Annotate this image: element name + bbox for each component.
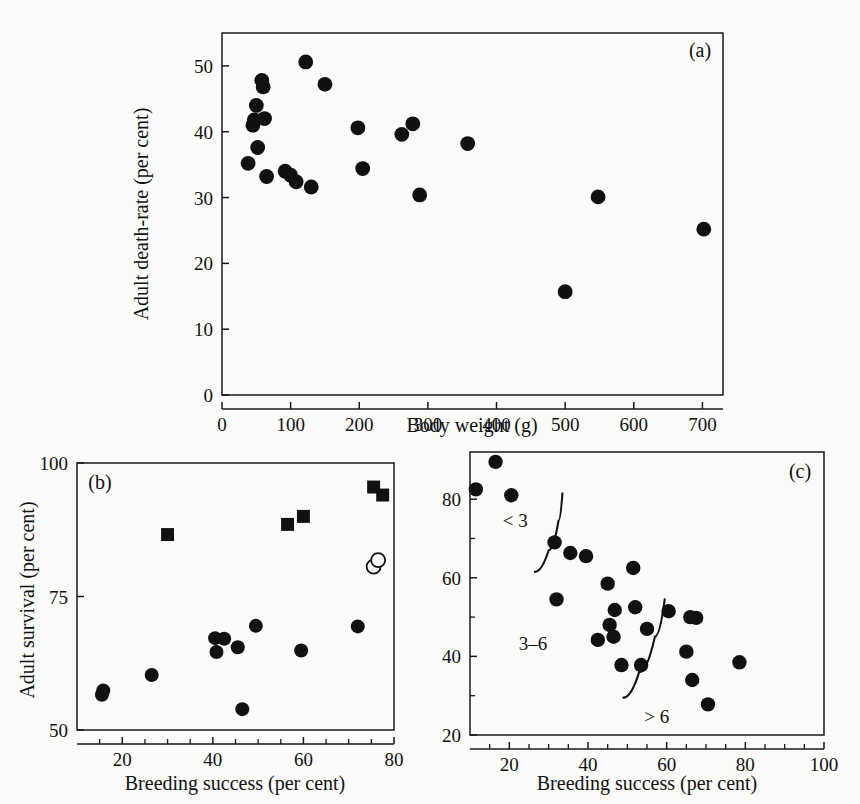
x-tick-label: 60	[294, 749, 313, 770]
x-tick-label: 20	[500, 754, 519, 775]
y-tick-label: 75	[49, 587, 68, 608]
data-point-circle	[488, 455, 502, 469]
panel-a: 010020030040050060070001020304050(a)Body…	[130, 33, 723, 437]
data-point-circle	[701, 697, 715, 711]
plot-frame	[470, 452, 824, 735]
data-point-circle	[558, 284, 573, 299]
panel-label: (a)	[689, 39, 711, 62]
y-tick-label: 10	[194, 319, 213, 340]
data-point-square	[297, 510, 310, 523]
data-point-square	[376, 489, 389, 502]
data-point-circle	[235, 702, 249, 716]
data-point-square	[161, 528, 174, 541]
y-axis-title: Adult survival (per cent)	[16, 501, 39, 698]
data-point-circle	[249, 619, 263, 633]
group-annotation: > 6	[644, 706, 669, 727]
data-point-circle	[217, 632, 231, 646]
data-point-circle	[591, 633, 605, 647]
data-point-circle	[318, 77, 333, 92]
data-point-circle	[634, 658, 648, 672]
data-point-circle	[351, 619, 365, 633]
data-point-circle	[145, 668, 159, 682]
data-point-circle	[294, 643, 308, 657]
data-point-circle	[614, 658, 628, 672]
data-point-circle	[259, 169, 274, 184]
x-tick-label: 0	[217, 414, 227, 435]
data-point-circle	[350, 120, 365, 135]
x-axis-title: Breeding success (per cent)	[125, 772, 345, 795]
plot-frame	[77, 463, 394, 730]
data-point-circle	[606, 630, 620, 644]
figure-svg: 010020030040050060070001020304050(a)Body…	[0, 0, 860, 804]
data-point-circle	[250, 140, 265, 155]
group-annotation: < 3	[503, 510, 528, 531]
panel-label: (c)	[789, 460, 811, 483]
x-axis-title: Breeding success (per cent)	[537, 772, 757, 795]
group-annotation: 3–6	[519, 633, 548, 654]
y-tick-label: 50	[49, 720, 68, 741]
data-point-circle	[209, 645, 223, 659]
panel-label: (b)	[88, 471, 111, 494]
y-tick-label: 20	[194, 253, 213, 274]
panel-c: 2040608010020406080< 33–6> 6(c)Breeding …	[442, 452, 838, 795]
y-axis-title: Adult death-rate (per cent)	[130, 108, 153, 321]
y-tick-label: 0	[204, 385, 214, 406]
data-point-circle	[685, 673, 699, 687]
x-tick-label: 600	[620, 414, 649, 435]
data-point-circle	[628, 600, 642, 614]
y-tick-label: 100	[40, 453, 69, 474]
data-point-circle	[412, 188, 427, 203]
y-tick-label: 40	[442, 646, 461, 667]
data-point-circle	[231, 640, 245, 654]
data-point-circle	[96, 683, 110, 697]
y-tick-label: 50	[194, 56, 213, 77]
panel-b: 204060805075100(b)Breeding success (per …	[16, 453, 404, 795]
data-point-circle	[626, 561, 640, 575]
data-point-circle	[355, 161, 370, 176]
data-point-circle	[394, 127, 409, 142]
x-tick-label: 40	[203, 749, 222, 770]
data-point-circle	[256, 80, 271, 95]
data-point-circle	[689, 611, 703, 625]
data-point-circle	[289, 174, 304, 189]
data-point-circle	[298, 55, 313, 70]
data-point-circle	[679, 644, 693, 658]
y-tick-label: 20	[442, 725, 461, 746]
data-point-circle	[563, 546, 577, 560]
data-point-circle	[608, 603, 622, 617]
figure-container: 010020030040050060070001020304050(a)Body…	[0, 0, 860, 804]
y-tick-label: 80	[442, 489, 461, 510]
y-tick-label: 40	[194, 122, 213, 143]
plot-frame	[222, 33, 723, 395]
data-point-circle	[640, 622, 654, 636]
x-tick-label: 200	[345, 414, 374, 435]
data-point-circle	[600, 576, 614, 590]
x-tick-label: 80	[385, 749, 404, 770]
x-tick-label: 20	[113, 749, 132, 770]
divider-less-than-3	[535, 493, 563, 572]
data-point-circle	[241, 156, 256, 171]
data-point-circle	[405, 116, 420, 131]
data-point-circle	[249, 98, 264, 113]
x-axis-title: Body weight (g)	[406, 414, 537, 437]
data-point-circle	[549, 592, 563, 606]
data-point-circle	[257, 111, 272, 126]
data-point-circle	[661, 604, 675, 618]
data-point-circle	[732, 655, 746, 669]
x-tick-label: 100	[276, 414, 305, 435]
data-point-circle	[591, 189, 606, 204]
divider-greater-than-6	[623, 599, 664, 697]
x-tick-label: 700	[688, 414, 717, 435]
data-point-square	[281, 518, 294, 531]
data-point-circle	[469, 482, 483, 496]
data-point-circle	[696, 222, 711, 237]
data-point-circle	[504, 488, 518, 502]
data-point-circle	[547, 535, 561, 549]
x-tick-label: 500	[551, 414, 580, 435]
data-point-open-circle	[371, 553, 385, 567]
data-point-circle	[579, 549, 593, 563]
y-tick-label: 30	[194, 188, 213, 209]
data-point-circle	[460, 136, 475, 151]
x-tick-label: 100	[810, 754, 839, 775]
y-tick-label: 60	[442, 568, 461, 589]
